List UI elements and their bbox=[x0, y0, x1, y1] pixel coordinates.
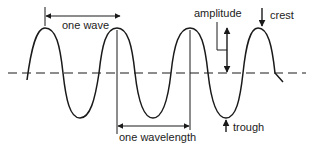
one-wavelength-label: one wavelength bbox=[119, 131, 196, 143]
wave-diagram: one wave one wavelength amplitude crest … bbox=[0, 0, 309, 148]
one-wave-label: one wave bbox=[62, 19, 109, 31]
amplitude-label: amplitude bbox=[194, 7, 242, 19]
crest-label: crest bbox=[270, 9, 294, 21]
trough-label: trough bbox=[233, 121, 264, 133]
amplitude-leader bbox=[217, 22, 227, 50]
